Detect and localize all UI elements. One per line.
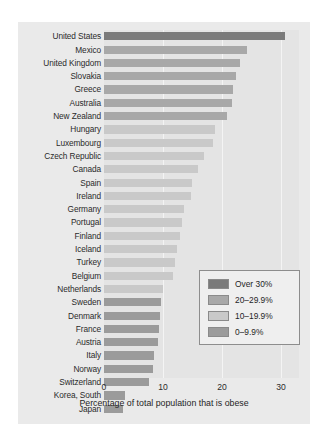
- legend-item: 0–9.9%: [208, 324, 299, 340]
- x-tick-label: 0: [102, 382, 107, 392]
- category-label: Iceland: [75, 243, 101, 256]
- bar-row: Finland: [104, 230, 299, 243]
- x-axis-title: Percentage of total population that is o…: [18, 398, 310, 408]
- bar: [104, 85, 233, 93]
- legend-item: 10–19.9%: [208, 308, 299, 324]
- category-label: United Kingdom: [43, 57, 101, 70]
- legend-item: Over 30%: [208, 276, 299, 292]
- bar: [104, 99, 232, 107]
- category-label: Czech Republic: [44, 150, 101, 163]
- category-label: Belgium: [72, 270, 101, 283]
- bar: [104, 179, 192, 187]
- bar-row: Canada: [104, 163, 299, 176]
- bar-row: Ireland: [104, 190, 299, 203]
- bar: [104, 59, 240, 67]
- x-tick-label: 20: [217, 382, 227, 392]
- legend-label: 10–19.9%: [235, 311, 273, 321]
- bar-row: New Zealand: [104, 110, 299, 123]
- category-label: Finland: [74, 230, 101, 243]
- legend-swatch: [208, 327, 229, 337]
- bar-row: Hungary: [104, 123, 299, 136]
- legend-label: 20–29.9%: [235, 295, 273, 305]
- bar-row: Turkey: [104, 256, 299, 269]
- bar: [104, 152, 204, 160]
- x-axis-ticks: 0102030: [104, 382, 299, 394]
- bar: [104, 112, 227, 120]
- category-label: Denmark: [68, 310, 101, 323]
- category-label: Netherlands: [57, 283, 101, 296]
- category-label: Sweden: [72, 296, 101, 309]
- bar-row: Mexico: [104, 43, 299, 56]
- category-label: Mexico: [75, 44, 101, 57]
- bar-row: Australia: [104, 97, 299, 110]
- category-label: Italy: [86, 349, 101, 362]
- category-label: Australia: [70, 97, 101, 110]
- bar-row: Luxembourg: [104, 136, 299, 149]
- bar-row: Greece: [104, 83, 299, 96]
- bar: [104, 298, 161, 306]
- bar: [104, 125, 215, 133]
- bar-row: Portugal: [104, 216, 299, 229]
- legend-label: 0–9.9%: [235, 327, 263, 337]
- chart-figure: United StatesMexicoUnited KingdomSlovaki…: [18, 22, 310, 424]
- category-label: Luxembourg: [56, 137, 101, 150]
- category-label: Ireland: [76, 190, 101, 203]
- x-tick-label: 10: [158, 382, 168, 392]
- category-label: France: [76, 323, 101, 336]
- category-label: Greece: [74, 83, 101, 96]
- bar: [104, 139, 213, 147]
- bar-row: Iceland: [104, 243, 299, 256]
- bar: [104, 272, 173, 280]
- bar: [104, 165, 198, 173]
- x-tick-label: 30: [276, 382, 286, 392]
- bar-row: United States: [104, 30, 299, 43]
- category-label: United States: [52, 30, 101, 43]
- category-label: Portugal: [71, 216, 101, 229]
- category-label: Turkey: [77, 256, 101, 269]
- bar-row: Italy: [104, 349, 299, 362]
- category-label: Austria: [76, 336, 101, 349]
- bar-row: Norway: [104, 363, 299, 376]
- bar-row: Spain: [104, 176, 299, 189]
- bar: [104, 351, 154, 359]
- bar: [104, 285, 163, 293]
- bar-row: Germany: [104, 203, 299, 216]
- legend-item: 20–29.9%: [208, 292, 299, 308]
- bar-row: Slovakia: [104, 70, 299, 83]
- bar: [104, 205, 184, 213]
- bar: [104, 46, 247, 54]
- category-label: New Zealand: [53, 110, 101, 123]
- category-label: Spain: [80, 177, 101, 190]
- bar: [104, 338, 158, 346]
- bar: [104, 365, 153, 373]
- bar-row: United Kingdom: [104, 57, 299, 70]
- bar: [104, 72, 236, 80]
- bar: [104, 258, 175, 266]
- bar: [104, 325, 159, 333]
- chart-legend: Over 30%20–29.9%10–19.9%0–9.9%: [199, 270, 300, 345]
- legend-label: Over 30%: [235, 279, 272, 289]
- bar: [104, 312, 160, 320]
- bar-row: Czech Republic: [104, 150, 299, 163]
- legend-swatch: [208, 311, 229, 321]
- category-label: Hungary: [70, 123, 101, 136]
- category-label: Germany: [68, 203, 101, 216]
- legend-swatch: [208, 295, 229, 305]
- bar: [104, 192, 191, 200]
- bar: [104, 218, 182, 226]
- category-label: Norway: [73, 363, 101, 376]
- category-label: Canada: [73, 163, 101, 176]
- bar: [104, 245, 177, 253]
- category-label: Switzerland: [59, 376, 101, 389]
- legend-swatch: [208, 279, 229, 289]
- bar: [104, 232, 180, 240]
- bar: [104, 32, 285, 40]
- category-label: Slovakia: [70, 70, 101, 83]
